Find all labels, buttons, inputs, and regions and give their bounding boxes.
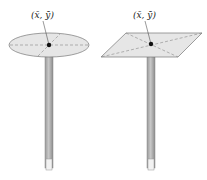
centroid-diagram: (x̄, ȳ) (x̄, ȳ) (0, 0, 207, 180)
centroid-label: (x̄, ȳ) (133, 10, 156, 20)
parallelogram-figure: (x̄, ȳ) (101, 10, 202, 170)
pencil-icon (147, 46, 155, 170)
centroid-label: (x̄, ȳ) (31, 10, 54, 20)
ellipse-figure: (x̄, ȳ) (9, 10, 89, 170)
centroid-dot (47, 43, 51, 47)
pencil-icon (45, 47, 53, 170)
centroid-dot (149, 42, 153, 46)
